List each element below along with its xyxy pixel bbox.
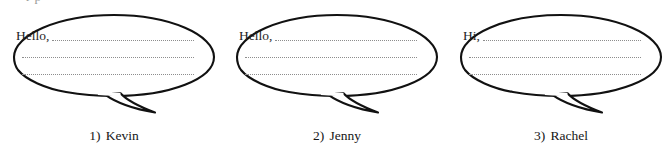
- speech-bubble-group-3: Hi, 3)Rachel: [449, 0, 670, 157]
- speech-bubble-outline-2: [225, 0, 449, 122]
- bubble-caption-2: 2)Jenny: [225, 128, 449, 144]
- caption-name: Jenny: [330, 128, 362, 143]
- caption-number: 2): [313, 128, 325, 143]
- bubble-caption-3: 3)Rachel: [449, 128, 670, 144]
- bubble-caption-1: 1)Kevin: [2, 128, 226, 144]
- speech-bubble-outline-1: [2, 0, 226, 122]
- speech-bubble-group-2: Hello, 2)Jenny: [225, 0, 449, 157]
- caption-name: Rachel: [551, 128, 588, 143]
- speech-bubble-outline-3: [449, 0, 670, 122]
- caption-number: 3): [534, 128, 546, 143]
- worksheet-sheet: Hello, 1)Kevin Hello,: [0, 0, 670, 157]
- speech-bubble-group-1: Hello, 1)Kevin: [2, 0, 226, 157]
- caption-name: Kevin: [106, 128, 139, 143]
- caption-number: 1): [89, 128, 101, 143]
